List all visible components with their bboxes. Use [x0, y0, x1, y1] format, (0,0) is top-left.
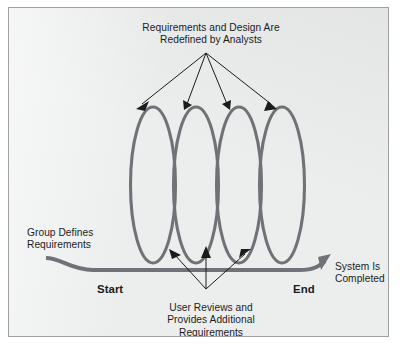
diagram-frame: Requirements and Design Are Redefined by…	[8, 7, 389, 337]
annotation-bottom-line-1: User Reviews and	[121, 302, 301, 314]
annotation-left-line-2: Requirements	[27, 239, 137, 251]
top-pointer-arrows-group	[136, 53, 277, 111]
annotation-right-line-1: System Is	[335, 261, 389, 273]
annotation-top-line-1: Requirements and Design Are	[121, 22, 301, 34]
spiral-loop-3	[217, 107, 262, 263]
bottom-pointer-arrows-group	[169, 246, 251, 289]
top-pointer-line-4	[206, 53, 271, 104]
annotation-bottom-line-3: Requirements	[121, 327, 301, 337]
annotation-right-line-2: Completed	[335, 273, 389, 285]
figure-root: Requirements and Design Are Redefined by…	[0, 0, 405, 353]
spiral-loop-1	[131, 107, 176, 263]
annotation-left: Group Defines Requirements	[27, 227, 137, 252]
spiral-loop-2	[174, 107, 219, 263]
spiral-loops-group	[131, 107, 305, 263]
annotation-top: Requirements and Design Are Redefined by…	[121, 22, 301, 47]
annotation-left-line-1: Group Defines	[27, 227, 137, 239]
annotation-bottom: User Reviews and Provides Additional Req…	[121, 302, 301, 337]
annotation-top-line-2: Redefined by Analysts	[121, 34, 301, 46]
start-label: Start	[97, 283, 157, 295]
spiral-loop-4	[260, 107, 305, 263]
end-label: End	[293, 283, 337, 295]
bottom-pointer-head-1	[169, 249, 181, 259]
sweep-arrowhead	[318, 254, 331, 270]
annotation-right: System Is Completed	[335, 261, 389, 286]
annotation-bottom-line-2: Provides Additional	[121, 314, 301, 326]
